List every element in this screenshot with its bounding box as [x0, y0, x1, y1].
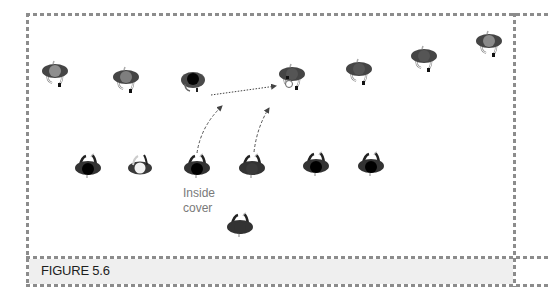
inside-cover-label-line2: cover [183, 201, 215, 216]
attacker-player-with-ball [279, 64, 305, 90]
frame-border-right [513, 13, 516, 287]
frame-border-top [26, 13, 548, 16]
attacker-player [476, 31, 502, 57]
inside-cover-label-line1: Inside [183, 186, 215, 201]
frame-border-bottom [26, 284, 548, 287]
attacker-player [42, 61, 68, 87]
defender-player [239, 154, 265, 178]
run-arrow [254, 108, 269, 152]
pass-arrow [211, 86, 276, 95]
defender-player [184, 154, 210, 178]
defender-player [75, 154, 101, 178]
attacker-player [346, 59, 372, 85]
inside-cover-label: Inside cover [183, 186, 215, 216]
defender-player [128, 155, 152, 175]
figure-caption: FIGURE 5.6 [41, 263, 110, 278]
defender-player [303, 152, 329, 176]
defender-player [358, 152, 384, 176]
ball-icon [286, 81, 293, 88]
defender-player [227, 213, 253, 237]
frame-border-left [26, 13, 29, 287]
defender-player [181, 72, 205, 92]
attacker-player [411, 46, 437, 72]
run-arrow [197, 106, 222, 153]
attacker-player [113, 67, 139, 93]
